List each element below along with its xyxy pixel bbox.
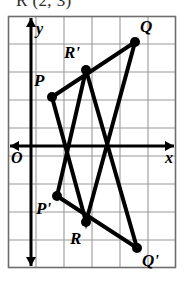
x-axis-label: x [165, 150, 173, 166]
vertex-dot-R [81, 217, 91, 227]
vertex-dot-Pp [52, 191, 62, 201]
vertex-label-Q: Q [140, 18, 152, 35]
y-axis-label: y [36, 21, 43, 37]
y-axis-arrow-down [26, 257, 36, 266]
vertex-label-Qp: Q' [142, 252, 159, 269]
vertex-dot-Q [130, 37, 140, 47]
vertex-label-R: R [70, 230, 81, 247]
vertex-label-Rp: R' [64, 44, 80, 61]
grid-lines [8, 16, 176, 268]
vertex-dot-Qp [132, 243, 142, 253]
vertex-dot-Rp [81, 65, 91, 75]
vertex-label-Pp: P' [36, 200, 51, 217]
origin-label: O [11, 150, 23, 166]
y-axis-arrow-up [26, 18, 36, 27]
vertex-dot-P [47, 92, 57, 102]
grid-and-shapes [0, 0, 194, 286]
coordinate-figure: R (2, 3) y x O PQRP'Q'R' [0, 0, 194, 286]
vertex-label-P: P [34, 72, 44, 89]
